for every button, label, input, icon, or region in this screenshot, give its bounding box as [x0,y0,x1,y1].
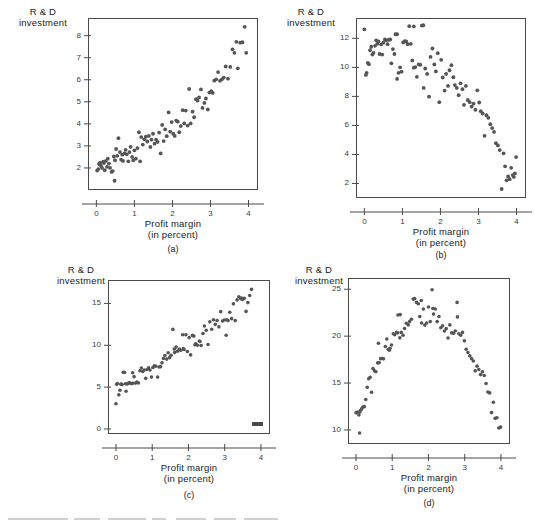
data-point [192,115,196,119]
data-point [138,159,142,163]
x-tick-label: 3 [213,453,237,462]
y-tick-label: 10 [68,340,101,349]
data-point [502,151,506,155]
data-point [365,385,369,389]
data-point [495,416,499,420]
data-point [403,327,407,331]
data-point [159,365,163,369]
data-point [166,351,170,355]
data-point [179,124,183,128]
x-tick-label: 1 [390,217,414,226]
data-point [228,65,232,69]
data-point [362,27,366,31]
data-point [112,155,116,159]
data-point [418,315,422,319]
data-point [139,135,143,139]
data-point [461,87,465,91]
data-point [181,333,185,337]
y-tick-label: 10 [308,425,341,434]
y-tick-label: 15 [68,298,101,307]
data-point [182,122,186,126]
data-point [370,390,374,394]
data-point [187,336,191,340]
data-point [203,324,207,328]
data-point [425,321,429,325]
panel-a-xlabel: Profit margin (in percent) [113,218,233,240]
x-tick-label: 2 [416,463,440,472]
panel-c: R & D investment Profit margin (in perce… [62,262,292,514]
data-point [498,148,502,152]
x-tick-label: 2 [428,217,452,226]
panel-c-caption: (c) [129,490,249,500]
data-point [412,25,416,29]
data-point [429,55,433,59]
data-point [124,390,128,394]
data-point [377,40,381,44]
data-point [444,327,448,331]
data-point [224,65,228,69]
data-point [462,103,466,107]
data-point [434,70,438,74]
data-point [156,140,160,144]
x-tick-label: 0 [84,209,108,218]
data-point [103,168,107,172]
data-point [372,51,376,55]
data-point [169,354,173,358]
panel-d-caption: (d) [369,498,489,508]
data-point [415,75,419,79]
panel-b-caption: (b) [381,250,501,260]
data-point [441,324,445,328]
data-point [193,343,197,347]
data-point [395,77,399,81]
data-point [364,398,368,402]
page-footer-smudge [0,514,535,524]
data-point [121,159,125,163]
data-point [490,411,494,415]
data-point [393,52,397,56]
data-point [437,315,441,319]
data-point [395,32,399,36]
data-point [151,132,155,136]
data-point [446,84,450,88]
data-point [374,370,378,374]
data-point [388,38,392,42]
data-point [240,296,244,300]
data-point [129,145,133,149]
data-point [119,382,123,386]
data-point [456,315,460,319]
data-point [128,150,132,154]
data-point [496,144,500,148]
data-point [448,68,452,72]
data-point [170,120,174,124]
data-point [386,42,390,46]
data-point [157,131,161,135]
data-point [427,95,431,99]
data-point [368,375,372,379]
data-point [199,344,203,348]
data-point [114,147,118,151]
data-point [224,333,228,337]
data-point [453,329,457,333]
data-point [398,336,402,340]
data-point [204,328,208,332]
data-point [446,336,450,340]
data-point [406,323,410,327]
scatter-points [362,23,518,191]
y-tick-label: 20 [308,331,341,340]
data-point [113,158,117,162]
data-point [514,155,518,159]
data-point [187,87,191,91]
data-point [148,368,152,372]
data-point [201,332,205,336]
data-point [107,162,111,166]
data-point [431,307,435,311]
data-point [385,337,389,341]
data-point [419,299,423,303]
data-point [156,375,160,379]
data-point [191,110,195,114]
panel-b-xlabel: Profit margin (in percent) [381,226,501,248]
data-point [197,95,201,99]
data-point [468,100,472,104]
y-tick-label: 4 [48,119,81,128]
data-point [206,108,210,112]
